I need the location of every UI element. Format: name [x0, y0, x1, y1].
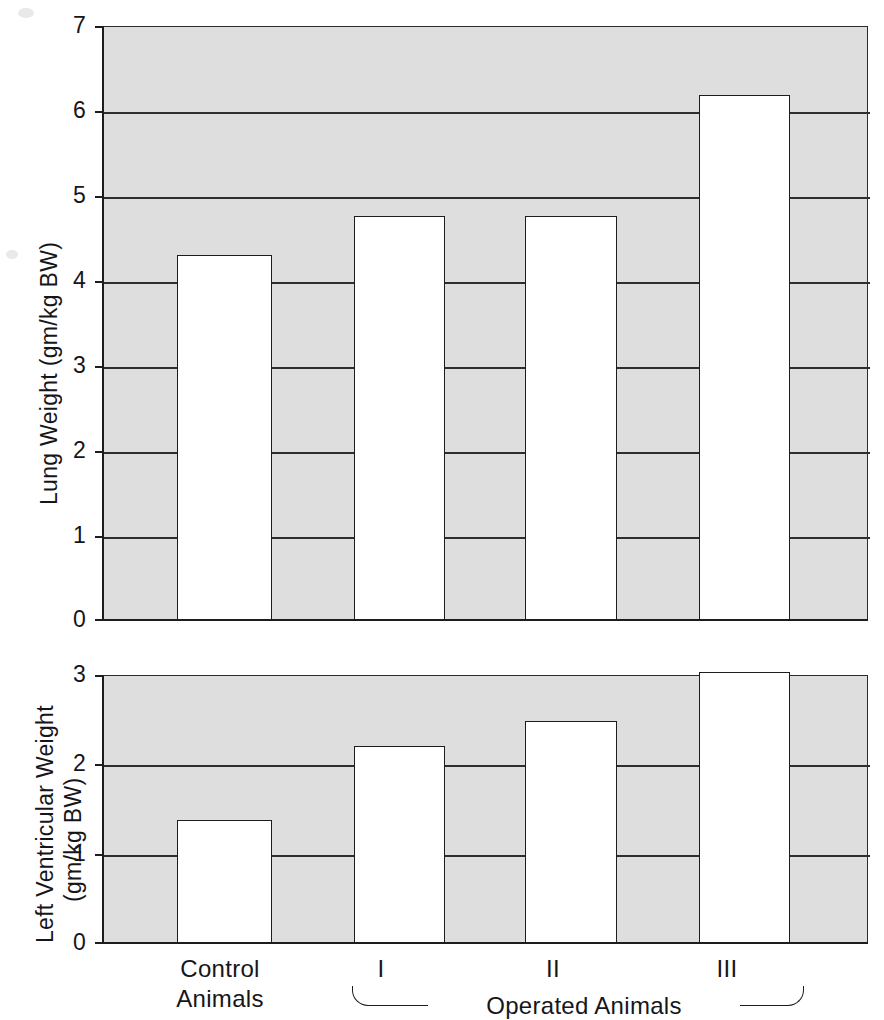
bar-operated-iii-lv	[699, 672, 790, 943]
ytick-label-5: 5	[48, 184, 86, 207]
bar-control-lung	[177, 255, 272, 621]
ytick-mark-lv-2	[95, 764, 104, 766]
category-label-operated-i: I	[341, 954, 421, 984]
ytick-mark-lv-1	[95, 854, 104, 856]
ytick-mark-2	[95, 451, 104, 453]
bar-operated-iii-lung	[699, 95, 790, 621]
bar-operated-ii-lv	[525, 721, 617, 943]
plot-area-lung	[102, 26, 868, 621]
bar-operated-i-lung	[354, 216, 445, 621]
y-axis-title-lv-line1: Left Ventricular Weight	[30, 705, 60, 943]
ytick-mark-3	[95, 366, 104, 368]
plot-area-lv	[102, 675, 868, 943]
ytick-label-2: 2	[48, 439, 86, 462]
ytick-label-6: 6	[48, 99, 86, 122]
category-label-operated-iii: III	[687, 954, 767, 984]
ytick-mark-lv-3	[95, 675, 104, 677]
ytick-label-lv-1: 1	[48, 842, 86, 865]
ytick-label-lv-2: 2	[48, 752, 86, 775]
ytick-label-7: 7	[48, 14, 86, 37]
ytick-label-1: 1	[48, 524, 86, 547]
category-label-operated-ii: II	[513, 954, 593, 984]
ytick-label-0: 0	[48, 608, 86, 631]
ytick-mark-1	[95, 536, 104, 538]
category-axis: Control Animals I II III Operated Animal…	[0, 944, 884, 1017]
ytick-mark-7	[95, 26, 104, 28]
chart-lung-weight: Lung Weight (gm/kg BW) 7 6 5 4 3	[0, 0, 884, 640]
ytick-label-3: 3	[48, 354, 86, 377]
ytick-mark-4	[95, 281, 104, 283]
operated-animals-label: Operated Animals	[428, 992, 740, 1020]
category-label-control-line2: Animals	[140, 984, 300, 1014]
bar-operated-ii-lung	[525, 216, 617, 621]
ytick-mark-6	[95, 111, 104, 113]
bar-control-lv	[177, 820, 272, 943]
ytick-label-4: 4	[48, 269, 86, 292]
ytick-mark-0	[95, 619, 104, 621]
bar-operated-i-lv	[354, 746, 445, 943]
ytick-label-lv-3: 3	[48, 663, 86, 686]
x-axis-line-lung	[102, 619, 868, 621]
ytick-mark-5	[95, 196, 104, 198]
category-label-control-line1: Control	[140, 954, 300, 984]
